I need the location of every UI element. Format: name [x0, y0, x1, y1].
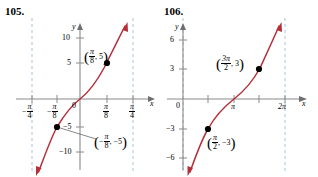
x-tick-label-105-pi-4: π4 [129, 103, 135, 120]
plot-point-106-upper [256, 66, 262, 72]
y-tick-label-106-neg3: −3 [166, 125, 175, 133]
x-tick-105-5-den: 4 [129, 111, 135, 120]
y-tick-label-106-neg6: −6 [166, 154, 175, 162]
x-tick-105-1-den: 4 [27, 111, 33, 120]
point-105-upper-close: ) [103, 49, 108, 65]
x-tick-105-4-num: π [103, 103, 109, 111]
point-106-upper-den: 2 [221, 63, 231, 72]
plot-point-105-lower [54, 124, 60, 130]
exercise-panel-106: 106. [159, 0, 318, 177]
point-label-105-upper: (π8, 5) [84, 48, 108, 65]
x-tick-105-4-den: 8 [103, 111, 109, 120]
point-label-106-upper: (3π2, 3) [216, 55, 244, 72]
x-tick-label-106-2pi: 2π [278, 103, 286, 111]
x-axis-label-105: x [150, 100, 154, 108]
y-tick-label-106-3: 3 [170, 65, 174, 73]
figure-container: 105. [0, 0, 318, 177]
y-tick-label-105-neg5: −5 [63, 123, 72, 131]
plot-point-106-lower [205, 126, 211, 132]
y-tick-label-105-5: 5 [67, 59, 71, 67]
y-axis-label-106: y [175, 23, 179, 31]
x-tick-105-1-num: π [27, 103, 33, 111]
point-106-lower-close: ) [231, 135, 236, 151]
y-tick-label-105-neg10: −10 [59, 148, 72, 156]
graph-106-svg [159, 0, 318, 177]
graph-105-svg [0, 0, 159, 177]
y-tick-label-105-10: 10 [62, 34, 70, 42]
x-tick-105-2-den: 8 [52, 111, 58, 120]
point-105-lower-close: ) [122, 134, 127, 150]
x-tick-105-2-num: π [52, 103, 58, 111]
point-106-lower-yval: −3 [222, 138, 231, 147]
x-tick-105-5-num: π [129, 103, 135, 111]
x-tick-label-105-pi-8: π8 [103, 103, 109, 120]
point-106-upper-close: ) [239, 56, 244, 72]
x-tick-label-106-pi: π [231, 103, 235, 111]
exercise-panel-105: 105. [0, 0, 159, 177]
point-label-105-lower: (−π8, −5) [94, 133, 127, 150]
point-label-106-lower: (π2, −3) [207, 134, 236, 151]
x-tick-label-106-zero: 0 [176, 102, 180, 110]
point-105-lower-yval: −5 [114, 137, 123, 146]
x-tick-label-105-zero: 0 [72, 102, 76, 110]
x-axis-label-106: x [302, 100, 306, 108]
y-axis-arrow-106 [180, 23, 186, 30]
point-106-upper-num: 3π [221, 55, 231, 63]
x-tick-label-105-neg-pi-8: −π8 [47, 103, 58, 120]
y-axis-arrow-105 [77, 23, 83, 30]
y-tick-label-106-6: 6 [170, 36, 174, 44]
y-axis-label-105: y [72, 23, 76, 31]
x-tick-label-105-neg-pi-4: −π4 [22, 103, 33, 120]
